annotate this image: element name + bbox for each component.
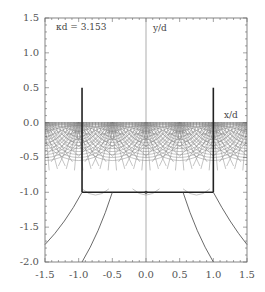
x-tick-label: 1.5: [239, 269, 255, 280]
x-tick-label: -0.5: [103, 269, 122, 280]
y-tick-label: -1.0: [20, 186, 39, 197]
lower-curve-right-inner: [183, 192, 213, 262]
y-tick-label: 0.0: [23, 117, 39, 128]
field-line-grid: [0, 85, 265, 171]
y-tick-label: 1.5: [23, 12, 39, 23]
chart: -1.5-1.0-0.50.00.51.01.5 1.51.00.50.0-0.…: [0, 0, 265, 292]
y-axis-label: y/d: [152, 23, 167, 33]
y-tick-label: -2.0: [20, 256, 39, 267]
x-tick-label: 1.0: [205, 269, 221, 280]
x-tick-label: -1.0: [69, 269, 88, 280]
y-tick-label: -1.5: [20, 221, 39, 232]
y-tick-label: 1.0: [23, 47, 39, 58]
x-tick-label: -1.5: [35, 269, 54, 280]
y-tick-label: -0.5: [20, 151, 39, 162]
lower-curve-left-inner: [82, 192, 112, 262]
y-tick-label: 0.5: [23, 82, 39, 93]
lower-curve-left-outer: [45, 192, 82, 244]
y-tick-labels: 1.51.00.50.0-0.5-1.0-1.5-2.0: [20, 12, 39, 267]
annotation-kappa-d: κd = 3.153: [56, 22, 107, 32]
lower-curve-right-outer: [213, 192, 247, 244]
x-tick-label: 0.0: [138, 269, 154, 280]
x-tick-label: 0.5: [172, 269, 188, 280]
x-axis-label: x/d: [224, 110, 238, 120]
x-tick-labels: -1.5-1.0-0.50.00.51.01.5: [35, 269, 255, 280]
